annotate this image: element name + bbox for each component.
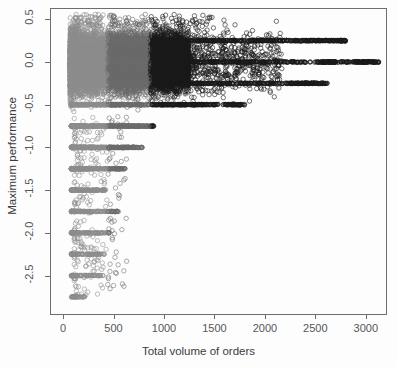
- x-axis-title: Total volume of orders: [0, 345, 397, 357]
- x-tick-mark: [265, 314, 266, 319]
- y-tick-mark: [45, 276, 50, 277]
- y-tick-label: -1.5: [23, 175, 35, 201]
- y-tick-mark: [45, 105, 50, 106]
- scatter-plot-figure: Total volume of orders Maximum performan…: [0, 0, 397, 367]
- x-tick-mark: [366, 314, 367, 319]
- scatter-points-canvas: [51, 9, 386, 314]
- y-tick-mark: [45, 19, 50, 20]
- y-tick-mark: [45, 190, 50, 191]
- plot-area: [50, 8, 387, 315]
- x-tick-mark: [214, 314, 215, 319]
- x-tick-mark: [164, 314, 165, 319]
- y-axis-title: Maximum performance: [6, 86, 18, 226]
- x-tick-label: 3000: [354, 322, 378, 334]
- x-tick-label: 1000: [152, 322, 176, 334]
- x-tick-label: 2500: [303, 322, 327, 334]
- y-tick-mark: [45, 62, 50, 63]
- x-tick-mark: [315, 314, 316, 319]
- y-tick-mark: [45, 147, 50, 148]
- x-tick-label: 0: [60, 322, 66, 334]
- y-tick-label: 0.0: [23, 47, 35, 73]
- y-tick-label: 0.5: [23, 4, 35, 30]
- y-tick-mark: [45, 233, 50, 234]
- x-tick-mark: [114, 314, 115, 319]
- y-tick-label: -2.5: [23, 261, 35, 287]
- x-tick-mark: [63, 314, 64, 319]
- x-tick-label: 500: [104, 322, 122, 334]
- x-tick-label: 2000: [253, 322, 277, 334]
- y-tick-label: -0.5: [23, 90, 35, 116]
- y-tick-label: -1.0: [23, 132, 35, 158]
- x-tick-label: 1500: [202, 322, 226, 334]
- y-tick-label: -2.0: [23, 218, 35, 244]
